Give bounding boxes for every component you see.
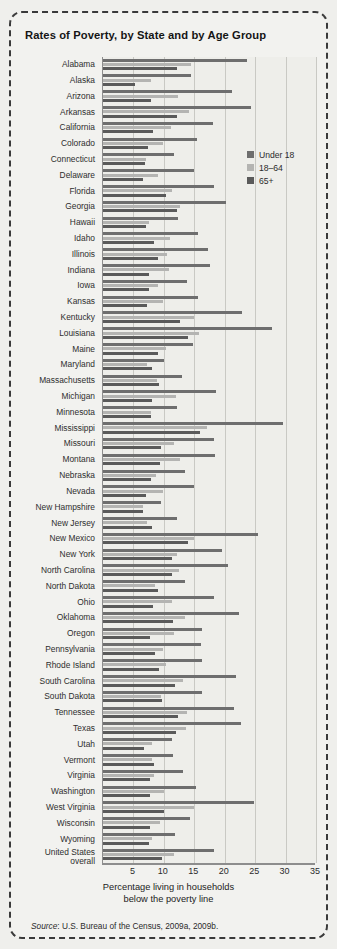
category-label: Maryland — [61, 360, 95, 369]
category-label: Vermont — [64, 756, 95, 765]
category-label: Florida — [69, 187, 95, 196]
bar — [103, 138, 197, 141]
x-tick-25: 25 — [249, 866, 259, 876]
bar — [103, 553, 177, 556]
x-axis-line — [102, 863, 315, 865]
category-label: Louisiana — [59, 329, 95, 338]
bar — [103, 221, 149, 224]
category-label: California — [60, 123, 95, 132]
legend-item: 65+ — [247, 175, 294, 186]
bar — [103, 320, 180, 323]
bar — [103, 833, 175, 836]
category-label: Missouri — [64, 439, 95, 448]
bar — [103, 778, 150, 781]
bar — [103, 153, 174, 156]
bar — [103, 327, 272, 330]
bar — [103, 722, 241, 725]
legend-swatch-icon — [247, 164, 254, 171]
bar — [103, 248, 208, 251]
bar — [103, 857, 162, 860]
bar — [103, 754, 173, 757]
category-label: Pennsylvania — [45, 645, 95, 654]
bar — [103, 316, 194, 319]
bar — [103, 201, 226, 204]
bar — [103, 616, 185, 619]
bar — [103, 106, 251, 109]
bar — [103, 684, 175, 687]
bar — [103, 367, 152, 370]
bar — [103, 126, 171, 129]
category-label: New Hampshire — [35, 503, 95, 512]
bar — [103, 742, 152, 745]
bar — [103, 395, 176, 398]
bar — [103, 573, 172, 576]
category-axis-labels: AlabamaAlaskaArizonaArkansasCaliforniaCo… — [11, 57, 99, 863]
chart-title: Rates of Poverty, by State and by Age Gr… — [25, 29, 266, 41]
bar — [103, 790, 164, 793]
bar — [103, 185, 214, 188]
category-label: Illinois — [72, 250, 95, 259]
bar — [103, 537, 194, 540]
bar — [103, 707, 234, 710]
bar — [103, 458, 180, 461]
x-tick-30: 30 — [280, 866, 290, 876]
bar — [103, 490, 163, 493]
bar — [103, 90, 232, 93]
bar — [103, 505, 143, 508]
bar — [103, 470, 185, 473]
bar — [103, 110, 189, 113]
bar — [103, 501, 161, 504]
bar — [103, 225, 146, 228]
bar — [103, 146, 148, 149]
category-label: Montana — [62, 455, 95, 464]
category-label: Connecticut — [51, 155, 95, 164]
x-axis-title-line1: Percentage living in households — [11, 882, 326, 894]
category-label: New Jersey — [51, 519, 95, 528]
bar — [103, 826, 150, 829]
bar — [103, 663, 166, 666]
legend: Under 1818–6465+ — [247, 149, 294, 188]
bar — [103, 526, 152, 529]
category-label: Arkansas — [60, 108, 95, 117]
legend-item: Under 18 — [247, 149, 294, 160]
bar — [103, 474, 156, 477]
bar — [103, 510, 143, 513]
bar — [103, 668, 159, 671]
bar — [103, 169, 194, 172]
bar — [103, 533, 258, 536]
bar — [103, 738, 172, 741]
bar — [103, 300, 163, 303]
source-text: : U.S. Bureau of the Census, 2009a, 2009… — [57, 921, 218, 931]
bar — [103, 178, 143, 181]
bar — [103, 837, 152, 840]
figure-panel: Rates of Poverty, by State and by Age Gr… — [9, 11, 328, 939]
bar — [103, 63, 191, 66]
category-label: Maine — [72, 345, 95, 354]
category-label: Michigan — [61, 392, 95, 401]
bar — [103, 691, 202, 694]
category-label: Massachusetts — [39, 376, 95, 385]
bar — [103, 605, 153, 608]
bar — [103, 83, 135, 86]
bar — [103, 794, 150, 797]
category-label: Iowa — [77, 281, 95, 290]
bar — [103, 652, 155, 655]
bar — [103, 431, 200, 434]
source-note: Source: U.S. Bureau of the Census, 2009a… — [31, 921, 218, 931]
bar — [103, 237, 170, 240]
category-label: Oklahoma — [57, 613, 95, 622]
category-label: Texas — [73, 724, 95, 733]
gridline-35 — [316, 57, 317, 863]
bar — [103, 280, 187, 283]
bar — [103, 786, 196, 789]
bar — [103, 541, 188, 544]
category-label: Utah — [77, 740, 95, 749]
bar — [103, 849, 214, 852]
bar — [103, 438, 214, 441]
bar — [103, 564, 228, 567]
bar — [103, 494, 146, 497]
bar — [103, 363, 147, 366]
bar — [103, 842, 149, 845]
bar — [103, 162, 145, 165]
bar — [103, 596, 214, 599]
